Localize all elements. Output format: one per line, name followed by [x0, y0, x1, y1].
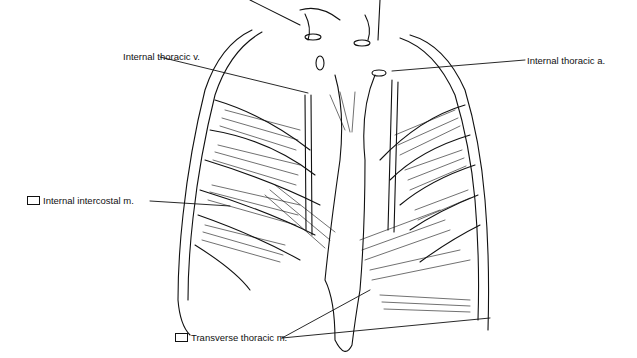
- label-text: Internal thoracic a.: [527, 55, 605, 66]
- label-transverse-thoracic-m: Transverse thoracic m.: [175, 332, 287, 343]
- legend-swatch: [27, 196, 40, 205]
- label-text: Internal thoracic v.: [123, 51, 200, 62]
- thoracic-wall-illustration: [0, 0, 637, 358]
- legend-swatch: [175, 333, 188, 342]
- label-internal-thoracic-a: Internal thoracic a.: [527, 55, 605, 66]
- label-text: Transverse thoracic m.: [191, 332, 287, 343]
- label-text: Internal intercostal m.: [43, 195, 134, 206]
- label-internal-thoracic-v: Internal thoracic v.: [123, 51, 200, 62]
- label-internal-intercostal-m: Internal intercostal m.: [27, 195, 134, 206]
